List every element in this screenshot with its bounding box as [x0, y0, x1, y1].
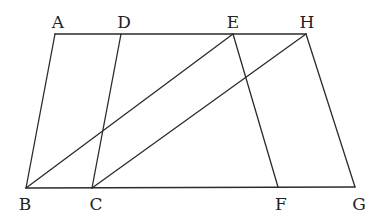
- segment-ch: [92, 34, 306, 188]
- segment-ef: [233, 34, 278, 187]
- segment-ab: [26, 34, 55, 188]
- segment-dc: [92, 34, 121, 188]
- point-label-h: H: [300, 12, 315, 32]
- geometry-diagram: ADEHBCFG: [0, 0, 382, 218]
- point-label-c: C: [89, 194, 102, 214]
- point-label-d: D: [117, 12, 131, 32]
- segment-be: [26, 34, 233, 188]
- segment-hg: [306, 34, 355, 187]
- point-label-e: E: [227, 12, 239, 32]
- point-label-g: G: [352, 194, 366, 214]
- point-label-b: B: [19, 194, 32, 214]
- point-label-f: F: [275, 194, 287, 214]
- point-label-a: A: [51, 12, 65, 32]
- segments-group: [26, 34, 355, 188]
- segment-bg: [26, 187, 355, 188]
- labels-group: ADEHBCFG: [19, 12, 366, 214]
